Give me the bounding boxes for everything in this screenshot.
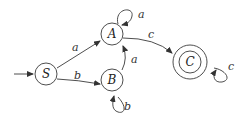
- edge-a-a-label: a: [138, 8, 145, 21]
- state-c-label: C: [185, 55, 194, 69]
- edge-s-b-label: b: [74, 69, 81, 82]
- state-c: C: [173, 45, 207, 79]
- edge-b-b-label: b: [124, 100, 131, 113]
- edge-b-b: b: [113, 96, 131, 113]
- state-s-label: S: [42, 67, 50, 81]
- edge-c-c-label: c: [228, 60, 234, 73]
- edge-a-c-label: c: [148, 28, 154, 41]
- edge-a-c: c: [123, 28, 172, 53]
- state-s: S: [35, 63, 57, 85]
- state-b: B: [101, 69, 123, 91]
- state-b-label: B: [107, 73, 117, 87]
- edge-b-a: a: [122, 46, 138, 70]
- edge-b-a-label: a: [131, 53, 138, 66]
- edge-c-c: c: [214, 60, 234, 82]
- state-a: A: [101, 23, 123, 45]
- edge-s-a: a: [57, 41, 100, 68]
- edge-s-b: b: [57, 69, 100, 84]
- edge-a-a: a: [117, 8, 144, 25]
- automaton-diagram: S A B C a b a b a c: [0, 0, 245, 120]
- edge-s-a-label: a: [72, 41, 79, 54]
- state-a-label: A: [107, 27, 117, 41]
